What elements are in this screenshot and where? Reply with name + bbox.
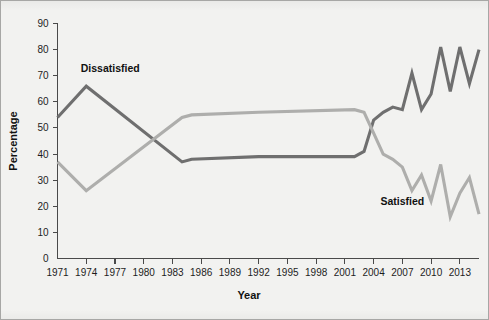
x-tick-label: 2013 [449, 267, 472, 278]
x-tick-label: 2007 [391, 267, 414, 278]
y-axis-title: Percentage [7, 111, 19, 170]
x-tick-label: 1998 [305, 267, 328, 278]
y-tick-label: 90 [37, 18, 49, 29]
y-tick-label: 30 [37, 175, 49, 186]
x-tick-label: 1971 [46, 267, 69, 278]
x-tick-label: 1983 [161, 267, 184, 278]
y-tick-label: 80 [37, 44, 49, 55]
x-axis-title: Year [237, 289, 261, 301]
x-tick-label: 1980 [133, 267, 156, 278]
line-chart: 0102030405060708090 19711974197719801983… [1, 1, 489, 320]
y-tick-label: 20 [37, 201, 49, 212]
series-label-satisfied: Satisfied [380, 195, 424, 207]
y-tick-label: 60 [37, 96, 49, 107]
x-tick-label: 1995 [276, 267, 299, 278]
y-axis-tick-group: 0102030405060708090 [37, 18, 57, 264]
x-tick-label: 1974 [75, 267, 98, 278]
x-tick-label: 1986 [190, 267, 213, 278]
x-tick-label: 2001 [334, 267, 357, 278]
y-tick-label: 50 [37, 122, 49, 133]
x-tick-label: 2004 [363, 267, 386, 278]
x-tick-label: 1989 [219, 267, 242, 278]
y-tick-label: 10 [37, 227, 49, 238]
y-tick-label: 70 [37, 70, 49, 81]
x-axis-tick-group: 1971197419771980198319861989199219951998… [46, 259, 471, 278]
x-tick-label: 1992 [248, 267, 271, 278]
y-tick-label: 0 [43, 253, 49, 264]
series-label-dissatisfied: Dissatisfied [81, 62, 140, 74]
x-tick-label: 1977 [104, 267, 127, 278]
y-tick-label: 40 [37, 149, 49, 160]
axis-lines [58, 24, 480, 259]
chart-figure: 0102030405060708090 19711974197719801983… [0, 0, 489, 320]
x-tick-label: 2010 [420, 267, 443, 278]
